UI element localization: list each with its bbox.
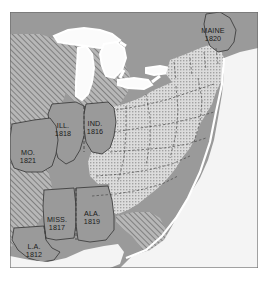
state-alabama [76, 186, 114, 242]
state-missouri [10, 118, 58, 172]
historical-map-figure: MAINE 1820 ILL. 1818 IND. 1816 MO. 1821 … [0, 0, 262, 281]
lake-erie [118, 78, 152, 89]
state-mississippi [43, 188, 76, 240]
map-graphic [0, 0, 262, 281]
map-body [10, 12, 258, 268]
